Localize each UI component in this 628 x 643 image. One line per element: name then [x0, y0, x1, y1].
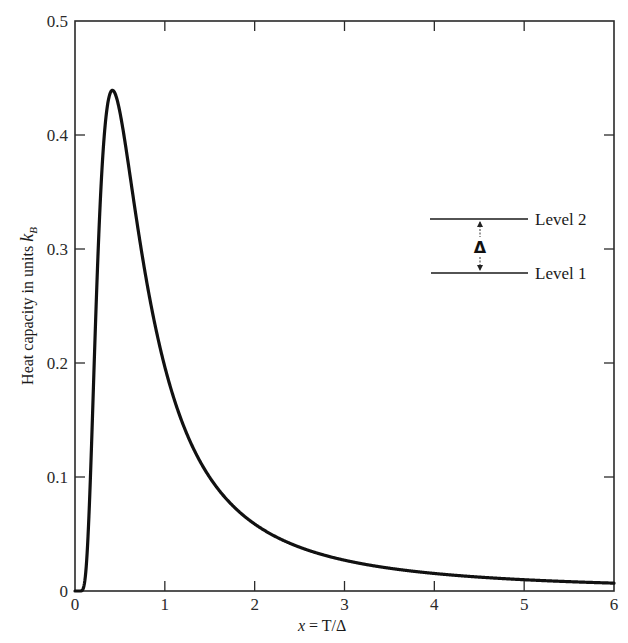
x-tick-label: 0 — [71, 595, 80, 614]
y-axis-label: Heat capacity in units kB — [17, 227, 39, 385]
x-tick-label: 2 — [250, 595, 259, 614]
level-2-label: Level 2 — [535, 210, 586, 229]
arrowhead-up-icon — [477, 221, 483, 227]
x-tick-label: 6 — [610, 595, 619, 614]
arrowhead-down-icon — [477, 265, 483, 271]
y-tick-label: 0.1 — [47, 468, 68, 487]
y-tick-label: 0 — [60, 582, 69, 601]
x-tick-label: 3 — [340, 595, 349, 614]
x-tick-label: 1 — [161, 595, 170, 614]
plot-frame — [75, 21, 614, 591]
y-tick-label: 0.5 — [47, 12, 68, 31]
y-tick-label: 0.4 — [47, 126, 69, 145]
x-axis-label: x = T/Δ — [297, 617, 346, 634]
y-axis-ticks: 00.10.20.30.40.5 — [47, 12, 614, 601]
y-tick-label: 0.2 — [47, 354, 68, 373]
heat-capacity-curve — [75, 90, 614, 591]
x-tick-label: 4 — [430, 595, 439, 614]
y-tick-label: 0.3 — [47, 240, 68, 259]
x-tick-label: 5 — [520, 595, 529, 614]
heat-capacity-chart: 0123456 00.10.20.30.40.5 Level 2 Level 1… — [0, 0, 628, 643]
energy-level-diagram: Level 2 Level 1 Δ — [430, 210, 586, 283]
level-1-label: Level 1 — [535, 264, 586, 283]
delta-gap-label: Δ — [474, 238, 487, 257]
